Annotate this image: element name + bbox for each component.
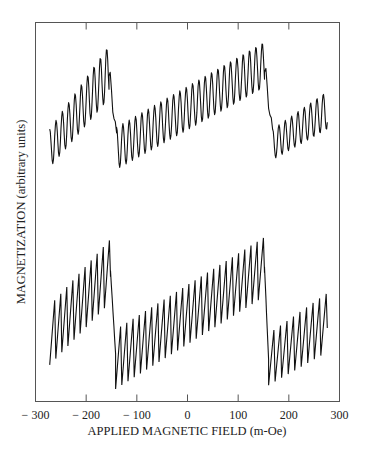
upper-magnetization-trace [50,44,328,167]
x-axis-tick-labels: − 300− 200− 1000100200300 [22,408,349,422]
x-tick-label: − 300 [22,408,50,422]
x-tick-label: − 100 [123,408,151,422]
x-axis-ticks [86,395,289,402]
x-tick-label: 0 [185,408,191,422]
x-tick-label: 300 [331,408,349,422]
x-tick-label: 200 [280,408,298,422]
lower-magnetization-trace [50,238,328,389]
x-tick-label: − 200 [72,408,100,422]
x-tick-label: 100 [229,408,247,422]
hysteresis-chart: − 300− 200− 1000100200300 APPLIED MAGNET… [0,0,367,454]
x-axis-label: APPLIED MAGNETIC FIELD (m-Oe) [88,424,287,438]
y-axis-label: MAGNETIZATION (arbitrary units) [14,120,28,305]
top-axis-ticks [86,23,289,30]
